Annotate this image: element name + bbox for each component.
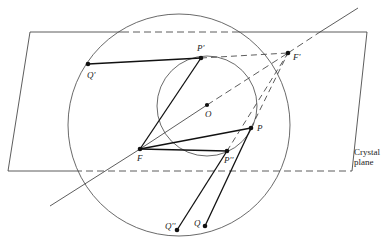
caption-crystal: Crystal xyxy=(354,147,380,157)
point-p-prime xyxy=(199,56,204,61)
label-p-prime: P' xyxy=(196,43,205,53)
point-p-double-prime xyxy=(225,149,230,154)
label-f: F xyxy=(136,153,143,163)
point-q-double-prime xyxy=(175,228,180,233)
point-f-prime xyxy=(286,51,291,56)
label-p: P xyxy=(256,123,263,133)
label-q-prime: Q' xyxy=(87,70,96,80)
point-f xyxy=(138,147,143,152)
dashed-construction-lines xyxy=(201,53,288,151)
point-p xyxy=(249,126,254,131)
label-f-prime: F' xyxy=(292,52,301,62)
point-o xyxy=(205,103,209,107)
axis-line xyxy=(50,8,358,206)
crystal-plane-diagram: Q' P' F' O P F P'' Q'' Q Crystal plane xyxy=(0,0,392,244)
ray-lines xyxy=(88,58,251,230)
label-q-double-prime: Q'' xyxy=(165,221,176,231)
caption-plane: plane xyxy=(354,157,374,167)
label-o: O xyxy=(205,109,212,119)
label-p-double-prime: P'' xyxy=(223,155,234,165)
label-q: Q xyxy=(194,218,201,228)
point-q-prime xyxy=(86,62,91,67)
point-q xyxy=(203,224,208,229)
